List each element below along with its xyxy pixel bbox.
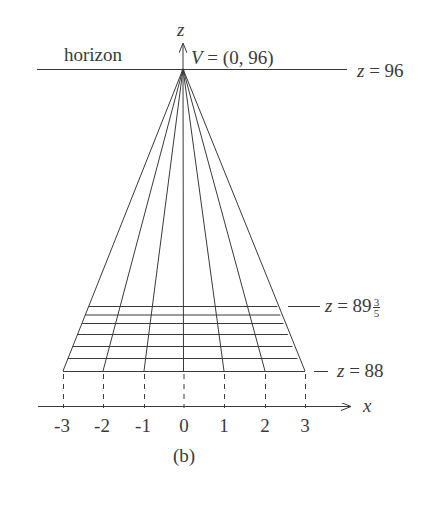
vertex-label: V = (0, 96) [191, 48, 273, 67]
horizon-z-label: z = 96 [357, 61, 404, 80]
vertex-label-rest: = (0, 96) [203, 47, 274, 68]
x-tick: 1 [219, 416, 229, 435]
bottom-grid-label: z = 88 [337, 361, 384, 380]
x-tick: -1 [135, 416, 151, 435]
x-tick: -2 [94, 416, 110, 435]
fraction: 35 [373, 297, 381, 318]
grid-horizontal-lines [63, 307, 305, 372]
figure-caption: (b) [173, 446, 195, 465]
x-tick: 3 [300, 416, 310, 435]
dashed-projections [64, 374, 306, 408]
top-grid-label: z = 8935 [325, 296, 380, 318]
x-axis-label: x [363, 396, 371, 415]
x-tick: 0 [179, 416, 189, 435]
x-tick: -3 [54, 416, 70, 435]
z-axis-label: z [177, 20, 184, 39]
horizon-label: horizon [64, 45, 122, 64]
perspective-diagram: z horizon V = (0, 96) z = 96 z = 8935 z … [0, 0, 430, 511]
x-tick: 2 [260, 416, 270, 435]
perspective-rays [63, 69, 305, 371]
vanishing-point [182, 69, 185, 72]
